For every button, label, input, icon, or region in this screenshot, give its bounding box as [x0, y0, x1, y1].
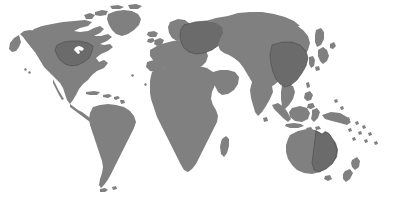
- world-map-container: World Map: [0, 0, 394, 203]
- world-map-svg: [0, 0, 394, 203]
